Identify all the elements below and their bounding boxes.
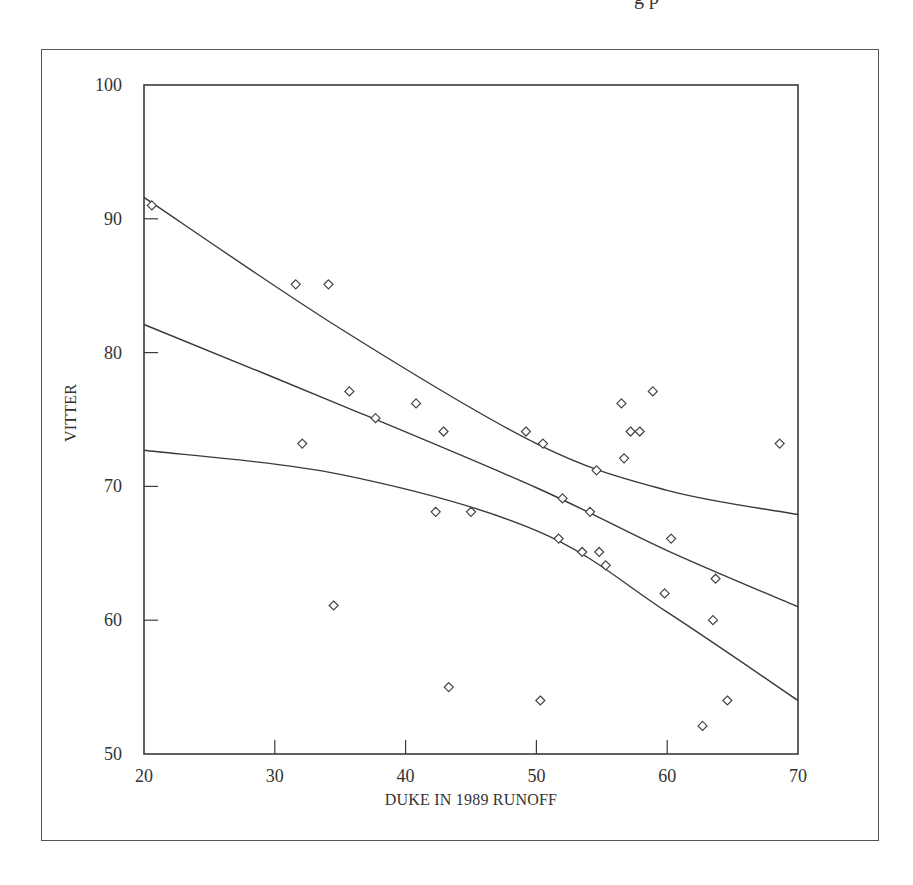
data-point-diamond bbox=[329, 601, 338, 610]
data-point-diamond bbox=[521, 427, 530, 436]
data-point-diamond bbox=[660, 589, 669, 598]
x-tick-label: 50 bbox=[527, 766, 545, 786]
data-point-diamond bbox=[536, 696, 545, 705]
y-axis-label: VITTER bbox=[62, 384, 79, 442]
regression-curves bbox=[144, 197, 798, 700]
plot-border bbox=[144, 85, 798, 754]
data-point-diamond bbox=[711, 574, 720, 583]
y-axis-tick-labels: 5060708090100 bbox=[95, 75, 122, 764]
data-point-diamond bbox=[698, 721, 707, 730]
data-point-diamond bbox=[595, 547, 604, 556]
data-point-diamond bbox=[601, 561, 610, 570]
data-point-diamond bbox=[538, 439, 547, 448]
data-point-diamond bbox=[620, 454, 629, 463]
scatter-chart: 203040506070 5060708090100 DUKE IN 1989 … bbox=[0, 0, 913, 885]
data-point-diamond bbox=[444, 683, 453, 692]
x-tick-label: 60 bbox=[658, 766, 676, 786]
data-point-diamond bbox=[592, 466, 601, 475]
upper-confidence-band-line bbox=[144, 197, 798, 514]
data-point-diamond bbox=[775, 439, 784, 448]
lower-confidence-band-line bbox=[144, 450, 798, 700]
y-tick-label: 90 bbox=[104, 209, 122, 229]
y-tick-label: 100 bbox=[95, 75, 122, 95]
x-axis-tick-labels: 203040506070 bbox=[135, 766, 807, 786]
data-point-diamond bbox=[324, 280, 333, 289]
x-tick-label: 40 bbox=[397, 766, 415, 786]
data-point-diamond bbox=[412, 399, 421, 408]
data-point-diamond bbox=[345, 387, 354, 396]
data-point-diamond bbox=[635, 427, 644, 436]
y-tick-label: 70 bbox=[104, 476, 122, 496]
y-tick-label: 60 bbox=[104, 610, 122, 630]
x-tick-label: 20 bbox=[135, 766, 153, 786]
x-tick-label: 70 bbox=[789, 766, 807, 786]
axis-ticks bbox=[144, 219, 667, 754]
data-point-diamond bbox=[648, 387, 657, 396]
data-point-diamond bbox=[298, 439, 307, 448]
data-point-diamond bbox=[708, 616, 717, 625]
data-point-diamond bbox=[439, 427, 448, 436]
y-tick-label: 80 bbox=[104, 343, 122, 363]
data-point-diamond bbox=[617, 399, 626, 408]
x-axis-label: DUKE IN 1989 RUNOFF bbox=[385, 791, 557, 808]
data-point-diamond bbox=[554, 534, 563, 543]
data-point-diamond bbox=[147, 201, 156, 210]
x-tick-label: 30 bbox=[266, 766, 284, 786]
data-point-diamond bbox=[667, 534, 676, 543]
y-tick-label: 50 bbox=[104, 744, 122, 764]
data-point-diamond bbox=[626, 427, 635, 436]
data-point-diamond bbox=[723, 696, 732, 705]
plot-area bbox=[144, 85, 798, 754]
data-points bbox=[147, 201, 784, 730]
data-point-diamond bbox=[291, 280, 300, 289]
regression-fit-line bbox=[144, 325, 798, 607]
data-point-diamond bbox=[431, 507, 440, 516]
